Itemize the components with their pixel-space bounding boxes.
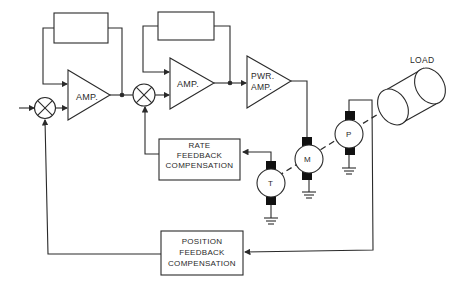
motor-label: M [304,155,311,164]
potentiometer [335,111,363,174]
position-box-line-1: POSITION [182,237,223,246]
position-box-line-3: COMPENSATION [168,259,236,268]
load-label: LOAD [410,55,434,65]
summing-junction-2 [133,84,155,106]
rate-box-line-3: COMPENSATION [166,161,234,170]
amp-2-feedback-box [158,12,214,40]
junction-dot-1 [120,93,124,97]
amp-1-label: AMP. [76,92,98,102]
shaft-dashed-line [278,108,388,176]
rate-box-line-2: FEEDBACK [177,151,223,160]
potentiometer-label: P [346,130,352,139]
rate-box-line-1: RATE [189,141,211,150]
position-box-line-2: FEEDBACK [179,248,225,257]
motor [295,137,323,198]
tachometer-label: T [268,179,273,188]
tachometer [257,161,285,224]
amp-1-feedback-box [54,13,108,43]
power-amp-label-2: AMP. [251,82,272,92]
servo-block-diagram: AMP. AMP. PWR. AMP. LOAD M T P RATE FEED… [0,0,466,287]
summing-junction-1 [35,98,56,119]
power-amp-label-1: PWR. [251,71,274,81]
load-cylinder [371,63,451,131]
junction-dot-2 [228,81,232,85]
amp-2-label: AMP. [177,79,199,89]
